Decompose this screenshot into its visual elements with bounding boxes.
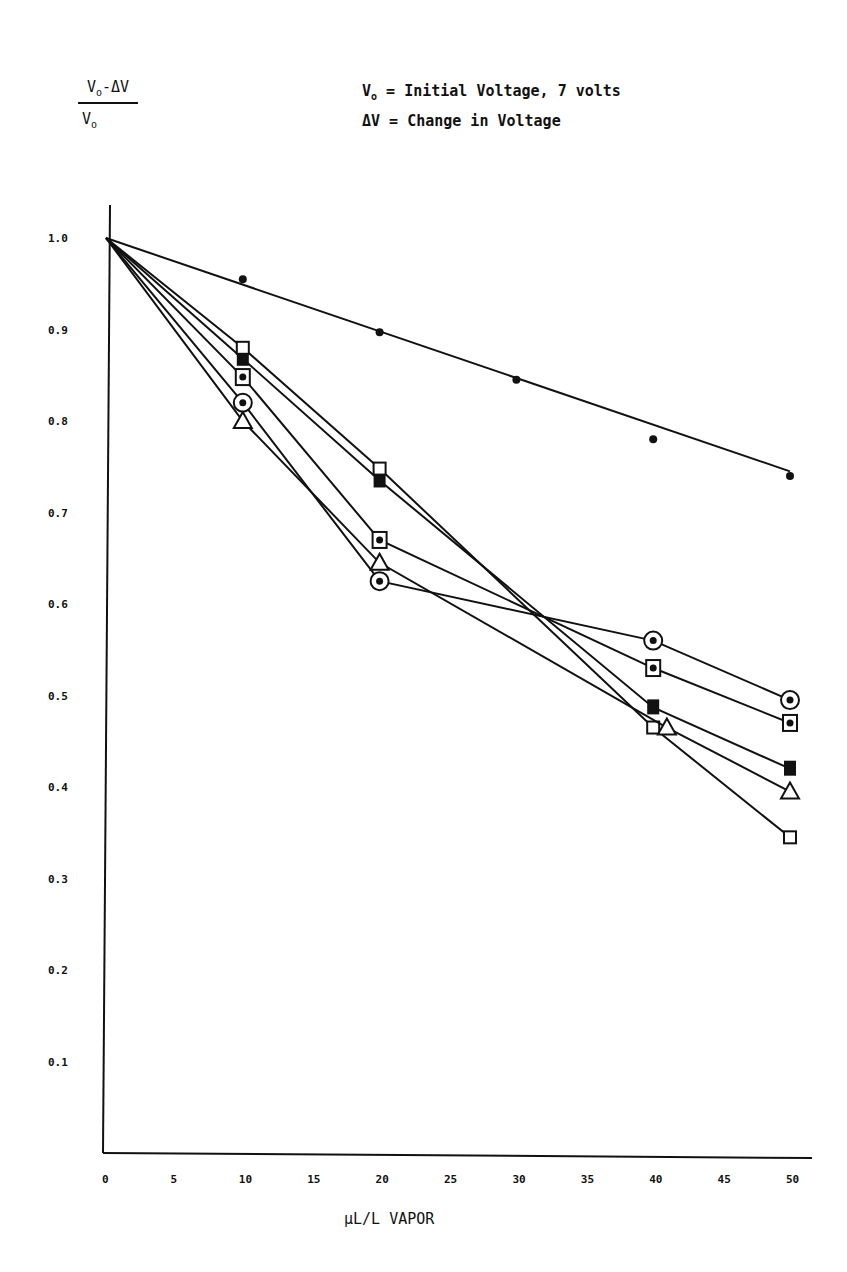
y-tick-label: 0.9 — [48, 324, 68, 337]
y-tick-label: 1.0 — [48, 232, 68, 245]
y-tick-label: 0.2 — [48, 964, 68, 977]
marker-open-square-icon — [237, 342, 249, 354]
chart-plot-area: 1.00.90.80.70.60.50.40.30.20.10510152025… — [0, 0, 847, 1272]
x-tick-label: 0 — [102, 1173, 109, 1186]
marker-triangle-icon — [234, 412, 252, 428]
x-tick-label: 5 — [170, 1173, 177, 1186]
x-tick-label: 20 — [376, 1173, 389, 1186]
series-line-boxed-dot — [106, 238, 790, 723]
series-line-filled-square — [106, 238, 790, 769]
x-tick-label: 35 — [581, 1173, 594, 1186]
marker-dot-icon — [786, 472, 794, 480]
y-tick-label: 0.4 — [48, 781, 68, 794]
series-line-filled-circle — [106, 238, 790, 471]
y-axis-line — [103, 205, 110, 1153]
x-axis-label: µL/L VAPOR — [344, 1210, 434, 1228]
marker-dot-icon — [239, 275, 247, 283]
marker-open-square-icon — [374, 463, 386, 475]
x-axis-line — [103, 1153, 812, 1158]
x-tick-label: 10 — [239, 1173, 252, 1186]
marker-dot-icon — [787, 697, 794, 704]
marker-triangle-icon — [781, 783, 799, 799]
marker-dot-icon — [650, 665, 657, 672]
y-tick-label: 0.5 — [48, 690, 68, 703]
x-tick-label: 50 — [786, 1173, 799, 1186]
y-tick-label: 0.3 — [48, 873, 68, 886]
marker-filled-square-icon — [784, 761, 796, 776]
x-tick-label: 40 — [649, 1173, 662, 1186]
x-tick-label: 45 — [718, 1173, 731, 1186]
marker-dot-icon — [376, 328, 384, 336]
marker-triangle-icon — [658, 719, 676, 735]
marker-dot-icon — [239, 374, 246, 381]
marker-dot-icon — [376, 536, 383, 543]
y-tick-label: 0.8 — [48, 415, 68, 428]
marker-dot-icon — [787, 719, 794, 726]
marker-open-square-icon — [784, 831, 796, 843]
x-tick-label: 25 — [444, 1173, 457, 1186]
y-tick-label: 0.6 — [48, 598, 68, 611]
marker-dot-icon — [650, 637, 657, 644]
marker-dot-icon — [649, 435, 657, 443]
y-tick-label: 0.1 — [48, 1056, 68, 1069]
marker-dot-icon — [239, 399, 246, 406]
marker-open-square-icon — [647, 722, 659, 734]
y-tick-label: 0.7 — [48, 507, 68, 520]
marker-dot-icon — [376, 578, 383, 585]
marker-dot-icon — [512, 376, 520, 384]
marker-filled-square-icon — [647, 699, 659, 714]
x-tick-label: 30 — [512, 1173, 525, 1186]
series-line-circled-dot — [106, 238, 790, 700]
x-tick-label: 15 — [307, 1173, 320, 1186]
